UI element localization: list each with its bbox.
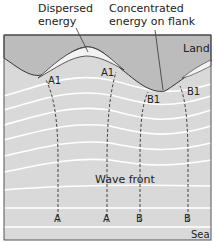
wave-front-label: Wave front xyxy=(95,174,155,186)
concentrated-line2: energy on flank xyxy=(109,15,195,28)
orthogonal-start-label: B xyxy=(184,213,191,225)
orthogonal-end-label: A1 xyxy=(101,67,114,79)
orthogonal-end-label: B1 xyxy=(147,94,160,106)
orthogonal-end-label: A1 xyxy=(48,75,61,87)
concentrated-line1: Concentrated xyxy=(109,2,195,15)
dispersed-energy-label: Dispersed energy xyxy=(38,2,93,28)
concentrated-energy-label: Concentrated energy on flank xyxy=(109,2,195,28)
dispersed-line1: Dispersed xyxy=(38,2,93,15)
orthogonal-start-label: A xyxy=(103,213,110,225)
orthogonal-end-label: B1 xyxy=(187,86,200,98)
sea-label: Sea xyxy=(191,229,210,241)
wave-refraction-diagram: Dispersed energy Concentrated energy on … xyxy=(0,0,214,242)
land-label: Land xyxy=(183,43,210,55)
orthogonal-start-label: B xyxy=(136,213,143,225)
dispersed-line2: energy xyxy=(38,15,93,28)
orthogonal-start-label: A xyxy=(54,213,61,225)
diagram-canvas xyxy=(0,0,214,242)
